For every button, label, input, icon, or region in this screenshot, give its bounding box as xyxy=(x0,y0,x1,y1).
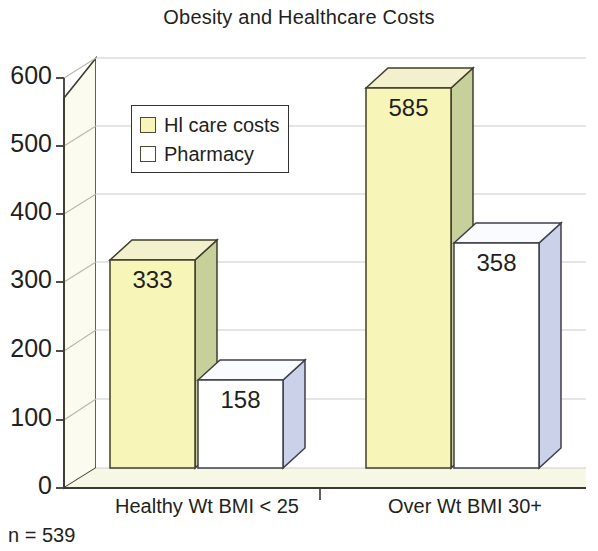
y-tick-label-600: 600 xyxy=(0,63,52,88)
legend-swatch-hl-care-costs xyxy=(140,117,156,133)
sample-size-note: n = 539 xyxy=(8,524,75,547)
chart-legend: Hl care costs Pharmacy xyxy=(131,105,289,173)
bar-value-overwt-pharmacy: 358 xyxy=(454,249,539,277)
x-category-label-overweight: Over Wt BMI 30+ xyxy=(350,495,580,518)
legend-label-hl-care-costs: Hl care costs xyxy=(164,115,280,135)
y-tick-label-200: 200 xyxy=(0,336,52,361)
bar-value-healthy-pharmacy: 158 xyxy=(198,386,283,414)
legend-label-pharmacy: Pharmacy xyxy=(164,144,254,164)
chart-floor xyxy=(64,468,586,488)
legend-item-hl-care-costs[interactable]: Hl care costs xyxy=(140,110,288,139)
legend-swatch-pharmacy xyxy=(140,146,156,162)
x-category-label-healthy: Healthy Wt BMI < 25 xyxy=(92,495,322,518)
bar-healthy-pharmacy[interactable] xyxy=(198,360,305,468)
y-axis-ticks xyxy=(56,78,64,488)
y-tick-label-0: 0 xyxy=(0,473,52,498)
chart-container: Obesity and Healthcare Costs xyxy=(0,0,598,551)
y-tick-label-400: 400 xyxy=(0,199,52,224)
chart-left-wall xyxy=(64,58,96,488)
bar-value-overwt-hl-care-costs: 585 xyxy=(366,94,451,122)
bar-value-healthy-hl-care-costs: 333 xyxy=(110,266,195,294)
legend-item-pharmacy[interactable]: Pharmacy xyxy=(140,139,288,168)
y-tick-label-300: 300 xyxy=(0,267,52,292)
y-tick-label-500: 500 xyxy=(0,131,52,156)
y-tick-label-100: 100 xyxy=(0,405,52,430)
